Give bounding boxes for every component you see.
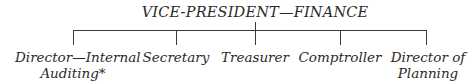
drop-line-5	[426, 30, 427, 45]
child-node-planning: Director of Planning	[390, 49, 466, 81]
child-node-comptroller: Comptroller	[298, 49, 382, 65]
horizontal-connector-line	[73, 30, 427, 31]
child-node-internal-auditing: Director—Internal Auditing*	[15, 49, 131, 81]
node-label-line1: Director of	[390, 49, 466, 65]
node-label-line1: Secretary	[140, 49, 212, 65]
root-stem-line	[255, 22, 256, 45]
node-label-line1: Director—Internal	[15, 49, 131, 65]
drop-line-2	[176, 30, 177, 45]
root-node-title: VICE-PRESIDENT—FINANCE	[0, 4, 473, 20]
node-label-line2: Planning	[390, 65, 466, 81]
node-label-line1: Comptroller	[298, 49, 382, 65]
drop-line-1	[73, 30, 74, 45]
child-node-treasurer: Treasurer	[218, 49, 292, 65]
node-label-line1: Treasurer	[218, 49, 292, 65]
node-label-line2: Auditing*	[15, 65, 131, 81]
child-node-secretary: Secretary	[140, 49, 212, 65]
drop-line-4	[340, 30, 341, 45]
